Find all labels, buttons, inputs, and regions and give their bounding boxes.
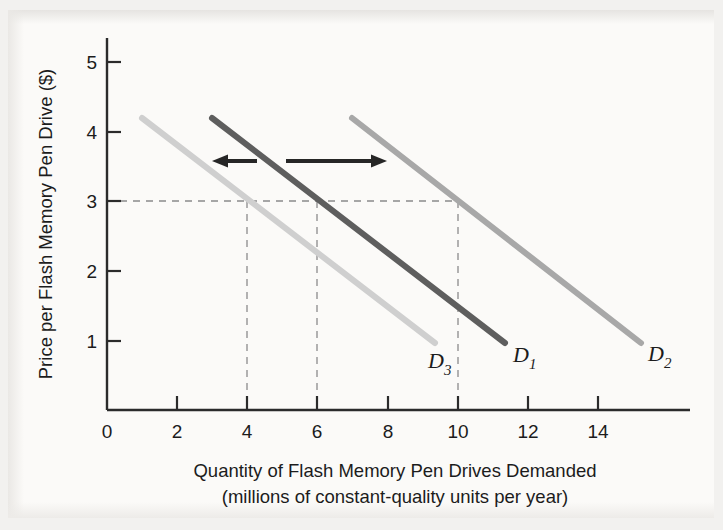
- shift-annotations: [212, 155, 387, 168]
- x-axis-tick-labels: 0 2 4 6 8 10 12 14: [102, 421, 609, 442]
- axes: [107, 38, 690, 410]
- figure-root: 5 4 3 2 1 0 2 4 6 8 10 12 14 D 3 D 1: [0, 0, 723, 530]
- curve-label-D3-letter: D: [427, 348, 444, 373]
- x-tick-label-0: 0: [102, 421, 113, 442]
- x-axis-title-line1: Quantity of Flash Memory Pen Drives Dema…: [193, 460, 596, 481]
- increase-in-demand-arrow: [286, 155, 387, 168]
- demand-curve-chart: 5 4 3 2 1 0 2 4 6 8 10 12 14 D 3 D 1: [0, 0, 723, 530]
- demand-curves: [142, 118, 641, 343]
- arrowhead-right-icon: [371, 155, 387, 168]
- demand-curve-D1: [212, 118, 505, 343]
- decrease-in-demand-arrow: [212, 155, 257, 168]
- curve-label-D1-letter: D: [512, 342, 529, 367]
- curve-label-D2: D 2: [647, 341, 672, 371]
- x-axis-title-line2: (millions of constant-quality units per …: [222, 486, 569, 507]
- curve-label-D3: D 3: [427, 348, 452, 378]
- reference-lines: [107, 201, 458, 410]
- y-tick-label-3: 3: [86, 191, 97, 212]
- y-axis-ticks: [107, 62, 121, 341]
- arrowhead-left-icon: [212, 155, 228, 168]
- y-axis-tick-labels: 5 4 3 2 1: [86, 52, 97, 352]
- y-tick-label-1: 1: [86, 331, 97, 352]
- x-tick-label-8: 8: [383, 421, 394, 442]
- x-tick-label-4: 4: [242, 421, 253, 442]
- y-tick-label-2: 2: [86, 261, 97, 282]
- curve-labels: D 3 D 1 D 2: [427, 341, 672, 378]
- curve-label-D1-subscript: 1: [529, 356, 537, 372]
- curve-label-D1: D 1: [512, 342, 537, 372]
- y-tick-label-5: 5: [86, 52, 97, 73]
- curve-label-D2-subscript: 2: [664, 355, 672, 371]
- y-tick-label-4: 4: [86, 122, 97, 143]
- x-tick-label-6: 6: [312, 421, 323, 442]
- curve-label-D2-letter: D: [647, 341, 664, 366]
- x-tick-label-14: 14: [587, 421, 609, 442]
- curve-label-D3-subscript: 3: [443, 362, 452, 378]
- x-tick-label-10: 10: [447, 421, 468, 442]
- y-axis-title: Price per Flash Memory Pen Drive ($): [35, 69, 56, 379]
- x-tick-label-2: 2: [172, 421, 183, 442]
- x-axis-ticks: [177, 396, 598, 410]
- x-tick-label-12: 12: [517, 421, 538, 442]
